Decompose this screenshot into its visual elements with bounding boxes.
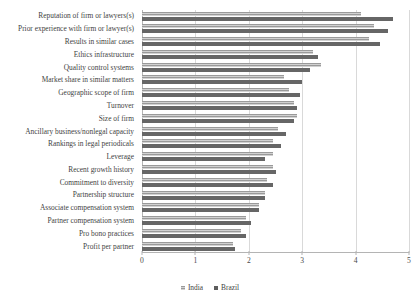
bar-brazil [142, 132, 286, 136]
bar-row [142, 100, 409, 113]
bar-brazil [142, 247, 235, 251]
category-label: Partnership structure [73, 190, 134, 199]
bar-india [142, 216, 246, 220]
bar-brazil [142, 93, 300, 97]
category-label: Turnover [107, 101, 134, 110]
plot-area [142, 10, 409, 253]
category-label: Quality control systems [64, 63, 134, 72]
bar-brazil [142, 106, 297, 110]
x-tick-label: 4 [354, 256, 358, 265]
legend-label: Brazil [221, 283, 239, 292]
x-tick-mark [409, 251, 410, 255]
bar-brazil [142, 55, 318, 59]
bar-row [142, 23, 409, 36]
x-tick-mark [355, 251, 356, 255]
bar-brazil [142, 208, 259, 212]
bar-india [142, 229, 241, 233]
x-tick-mark [248, 251, 249, 255]
bar-row [142, 36, 409, 49]
bar-india [142, 114, 297, 118]
bar-india [142, 191, 265, 195]
category-axis: Reputation of firm or lawyers(s)Prior ex… [0, 10, 138, 253]
bar-india [142, 63, 321, 67]
bar-row [142, 176, 409, 189]
bar-row [142, 202, 409, 215]
category-label: Ethics infrastructure [74, 50, 134, 59]
bar-india [142, 88, 289, 92]
x-axis-line [142, 252, 409, 253]
bar-brazil [142, 119, 294, 123]
category-label: Associate compensation system [40, 203, 134, 212]
x-tick-label: 1 [193, 256, 197, 265]
bar-india [142, 12, 361, 16]
x-tick-mark [142, 251, 143, 255]
bar-brazil [142, 80, 302, 84]
bar-row [142, 151, 409, 164]
bar-row [142, 74, 409, 87]
category-label: Leverage [107, 152, 135, 161]
category-label: Geographic scope of firm [58, 88, 134, 97]
bar-row [142, 87, 409, 100]
category-label: Partner compensation system [47, 216, 134, 225]
bar-brazil [142, 17, 393, 21]
bar-brazil [142, 157, 265, 161]
bar-brazil [142, 183, 273, 187]
bar-brazil [142, 234, 246, 238]
bar-brazil [142, 42, 380, 46]
bar-row [142, 125, 409, 138]
bar-india [142, 139, 273, 143]
x-tick-label: 3 [300, 256, 304, 265]
category-label: Commitment to diversity [60, 178, 134, 187]
bar-row [142, 138, 409, 151]
x-tick-mark [195, 251, 196, 255]
category-label: Prior experience with firm or lawyer(s) [18, 24, 134, 33]
bar-india [142, 50, 313, 54]
category-label: Rankings in legal periodicals [48, 139, 134, 148]
bar-row [142, 163, 409, 176]
x-tick-label: 2 [247, 256, 251, 265]
chart-legend: IndiaBrazil [0, 283, 420, 292]
value-axis: 012345 [142, 256, 409, 270]
bar-india [142, 152, 273, 156]
category-label: Market share in similar matters [42, 75, 134, 84]
category-label: Reputation of firm or lawyers(s) [38, 11, 134, 20]
bar-india [142, 101, 294, 105]
bar-india [142, 203, 259, 207]
bar-brazil [142, 196, 265, 200]
bar-row [142, 10, 409, 23]
bar-india [142, 165, 273, 169]
category-label: Ancillary business/nonlegal capacity [25, 127, 134, 136]
legend-label: India [188, 283, 203, 292]
category-label: Size of firm [99, 114, 134, 123]
bar-india [142, 24, 374, 28]
legend-swatch-icon [181, 286, 185, 290]
bar-brazil [142, 221, 251, 225]
bar-india [142, 127, 278, 131]
bar-row [142, 48, 409, 61]
bar-india [142, 37, 369, 41]
bar-india [142, 75, 284, 79]
x-tick-label: 0 [140, 256, 144, 265]
category-label: Recent growth history [68, 165, 134, 174]
bar-brazil [142, 144, 281, 148]
category-label: Profit per partner [83, 242, 134, 251]
bar-rows [142, 10, 409, 253]
bar-india [142, 242, 233, 246]
bar-india [142, 178, 267, 182]
bar-row [142, 227, 409, 240]
bar-row [142, 215, 409, 228]
x-tick-label: 5 [407, 256, 411, 265]
bar-brazil [142, 29, 388, 33]
gridline [409, 10, 410, 253]
legend-swatch-icon [214, 286, 218, 290]
legend-item-india[interactable]: India [181, 283, 203, 292]
category-label: Results in similar cases [65, 37, 134, 46]
bar-row [142, 189, 409, 202]
bar-chart: Reputation of firm or lawyers(s)Prior ex… [0, 0, 420, 305]
bar-brazil [142, 68, 310, 72]
category-label: Pro bono practices [79, 229, 134, 238]
bar-brazil [142, 170, 276, 174]
bar-row [142, 61, 409, 74]
legend-item-brazil[interactable]: Brazil [214, 283, 239, 292]
bar-row [142, 112, 409, 125]
